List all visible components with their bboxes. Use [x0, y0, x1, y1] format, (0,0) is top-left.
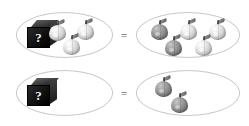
- apple-body: [165, 40, 182, 56]
- apple-highlight: [155, 32, 160, 36]
- apple-highlight: [53, 33, 58, 37]
- apple-body: [171, 97, 188, 113]
- apple-highlight: [169, 48, 174, 52]
- apple-dark[interactable]: [164, 35, 183, 57]
- equation-2-left-set: ?: [16, 70, 113, 116]
- apple-dark[interactable]: [170, 92, 189, 114]
- apple-highlight: [175, 105, 180, 109]
- equals-sign: =: [115, 84, 133, 102]
- question-mark-label: ?: [27, 27, 50, 48]
- apple-highlight: [199, 48, 204, 52]
- equation-puzzle-figure: ?: [0, 0, 249, 126]
- cube-side-face: [50, 78, 57, 104]
- equation-row-2: ? =: [0, 66, 249, 122]
- apple-light[interactable]: [194, 35, 213, 57]
- apple-highlight: [159, 89, 164, 93]
- question-mark-label: ?: [27, 85, 50, 106]
- equation-1-left-set: ?: [16, 12, 113, 58]
- apple-highlight: [213, 32, 218, 36]
- equation-row-1: ?: [0, 8, 249, 64]
- apple-highlight: [81, 32, 86, 36]
- apple-body: [63, 39, 80, 55]
- equation-1-right-set: [136, 12, 240, 58]
- mystery-box[interactable]: ?: [27, 78, 57, 108]
- equals-sign: =: [115, 26, 133, 44]
- apple-light[interactable]: [62, 34, 81, 56]
- equation-2-right-set: [136, 70, 240, 116]
- apple-highlight: [184, 32, 189, 36]
- apple-body: [195, 40, 212, 56]
- apple-highlight: [67, 47, 72, 51]
